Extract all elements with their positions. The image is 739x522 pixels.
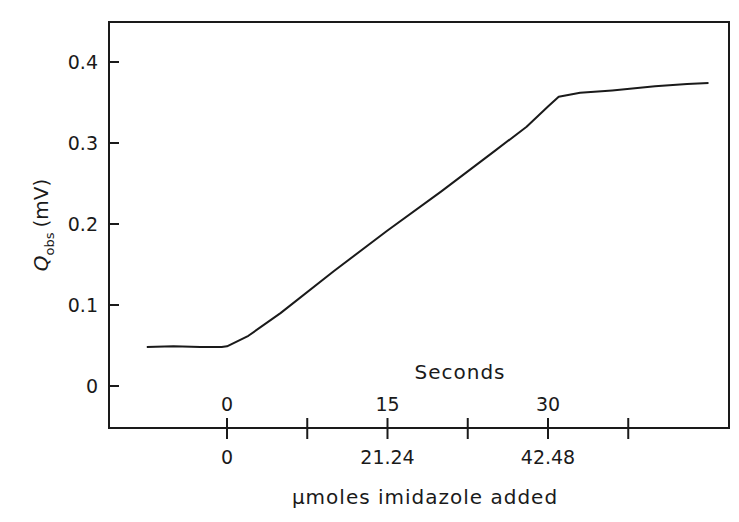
y-tick-label: 0.2	[68, 213, 98, 235]
data-line	[147, 83, 709, 347]
x-axis-ticks: 01530021.2442.48	[221, 393, 628, 468]
y-axis-title: Qobs(mV)	[29, 179, 57, 272]
y-tick-label: 0.3	[68, 132, 98, 154]
umoles-tick-label: 0	[221, 446, 233, 468]
y-axis-title-sub: obs	[42, 232, 57, 255]
svg-text:Qobs(mV): Qobs(mV)	[29, 179, 57, 272]
x-axis-title: μmoles imidazole added	[292, 485, 558, 509]
y-tick-label: 0	[86, 375, 98, 397]
y-axis-title-main: Q	[29, 256, 53, 272]
seconds-tick-label: 15	[375, 393, 399, 415]
seconds-axis-title: Seconds	[414, 360, 505, 384]
seconds-tick-label: 0	[221, 393, 233, 415]
umoles-tick-label: 21.24	[360, 446, 414, 468]
seconds-tick-label: 30	[536, 393, 560, 415]
y-axis-title-unit: (mV)	[29, 179, 53, 228]
y-axis-ticks: 00.10.20.30.4	[68, 51, 119, 397]
umoles-tick-label: 42.48	[521, 446, 575, 468]
y-tick-label: 0.1	[68, 294, 98, 316]
titration-chart: 00.10.20.30.4 01530021.2442.48 Seconds μ…	[0, 0, 739, 522]
y-tick-label: 0.4	[68, 51, 98, 73]
